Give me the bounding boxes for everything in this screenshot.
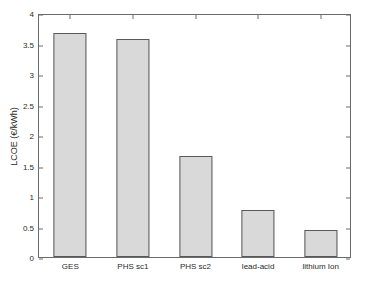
- x-axis-tick-mark-top: [320, 15, 321, 19]
- x-axis-tick-label: lead-acid: [242, 263, 274, 271]
- y-axis-tick-mark-right: [346, 137, 350, 138]
- y-axis-tick-mark: [39, 76, 43, 77]
- y-axis-tick-mark-right: [346, 45, 350, 46]
- y-axis-tick-label: 1.5: [23, 164, 34, 172]
- y-axis-tick-mark-right: [346, 167, 350, 168]
- y-axis-title: LCOE (€/kWh): [8, 14, 20, 258]
- y-axis-tick-mark: [39, 45, 43, 46]
- figure: LCOE (€/kWh) 00.511.522.533.54 GESPHS sc…: [0, 0, 366, 288]
- y-axis-tick-label: 4: [30, 11, 34, 19]
- bar: [242, 210, 275, 257]
- y-axis-tick-label: 0: [30, 255, 34, 263]
- x-axis-tick-mark-top: [132, 15, 133, 19]
- y-axis-tick-label: 0.5: [23, 225, 34, 233]
- y-axis-tick-label: 2: [30, 133, 34, 141]
- y-axis-tick-mark: [39, 15, 43, 16]
- y-axis-tick-label: 3.5: [23, 42, 34, 50]
- y-axis-tick-label: 1: [30, 194, 34, 202]
- y-axis-tick-mark-right: [346, 106, 350, 107]
- plot-area: 00.511.522.533.54 GESPHS sc1PHS sc2lead-…: [38, 14, 351, 258]
- bar: [304, 230, 337, 257]
- y-axis-tick-mark-right: [346, 198, 350, 199]
- y-axis-tick-mark: [39, 106, 43, 107]
- y-axis-tick-mark: [39, 259, 43, 260]
- bar: [179, 156, 212, 257]
- y-axis-tick-mark: [39, 137, 43, 138]
- y-axis-tick-mark: [39, 167, 43, 168]
- y-axis-tick-label: 2.5: [23, 103, 34, 111]
- x-axis-tick-label: lithium Ion: [302, 263, 338, 271]
- y-axis-tick-mark-right: [346, 15, 350, 16]
- x-axis-tick-mark-top: [70, 15, 71, 19]
- bar: [116, 39, 149, 257]
- x-axis-tick-label: PHS sc1: [117, 263, 148, 271]
- x-axis-tick-mark-top: [195, 15, 196, 19]
- x-axis-tick-mark-top: [258, 15, 259, 19]
- bar: [54, 33, 87, 257]
- x-axis-tick-label: PHS sc2: [180, 263, 211, 271]
- y-axis-tick-mark: [39, 228, 43, 229]
- y-axis-title-text: LCOE (€/kWh): [10, 107, 19, 166]
- x-axis-tick-label: GES: [62, 263, 79, 271]
- y-axis-tick-mark: [39, 198, 43, 199]
- y-axis-tick-mark-right: [346, 228, 350, 229]
- y-axis-tick-mark-right: [346, 76, 350, 77]
- y-axis-tick-mark-right: [346, 259, 350, 260]
- y-axis-tick-label: 3: [30, 72, 34, 80]
